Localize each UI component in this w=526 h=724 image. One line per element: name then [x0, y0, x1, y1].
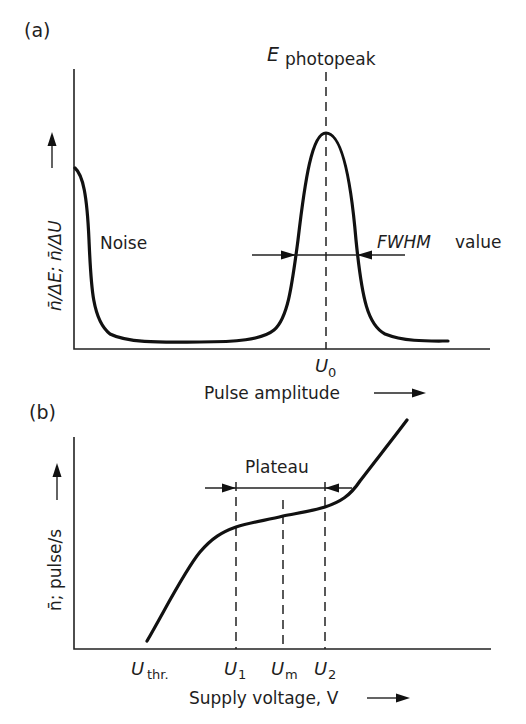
panel-a: (a) n̄/ΔE; n̄/ΔU E photopeak Noise FWHM — [24, 19, 501, 403]
noise-label: Noise — [100, 233, 147, 253]
panel-b-x-arrow-icon — [367, 694, 410, 703]
svg-text:U: U — [271, 658, 284, 679]
panel-a-x-axis-label: Pulse amplitude — [204, 383, 340, 403]
panel-a-label: (a) — [24, 19, 50, 41]
panel-a-y-arrow-icon — [48, 132, 57, 168]
x-tick-uthr: U thr. — [131, 658, 169, 682]
plateau-curve — [147, 420, 407, 641]
svg-text:U: U — [131, 658, 144, 679]
panel-b-x-axis-label: Supply voltage, V — [189, 688, 339, 708]
svg-text:U: U — [224, 658, 237, 679]
photopeak-label-sub: photopeak — [285, 49, 376, 69]
x-tick-u0-sub: 0 — [328, 365, 336, 380]
plateau-double-arrow — [205, 484, 352, 493]
svg-text:1: 1 — [238, 667, 246, 682]
x-tick-u1: U 1 — [224, 658, 246, 682]
panel-a-axes — [74, 69, 490, 349]
fwhm-label-value: value — [455, 232, 501, 252]
panel-b: (b) n̄; pulse/s Plateau U thr. U 1 — [29, 401, 491, 708]
fwhm-label: FWHM — [377, 232, 431, 252]
plateau-label: Plateau — [245, 457, 309, 477]
panel-b-y-axis-label: n̄; pulse/s — [45, 529, 65, 611]
panel-b-label: (b) — [29, 401, 56, 423]
panel-b-y-arrow-icon — [53, 463, 62, 500]
figure-canvas: (a) n̄/ΔE; n̄/ΔU E photopeak Noise FWHM — [0, 0, 526, 724]
svg-text:m: m — [285, 667, 298, 682]
x-tick-um: U m — [271, 658, 298, 682]
x-tick-u2: U 2 — [314, 658, 336, 682]
svg-text:2: 2 — [328, 667, 336, 682]
svg-text:U: U — [314, 658, 327, 679]
panel-a-y-axis-label: n̄/ΔE; n̄/ΔU — [45, 220, 65, 311]
svg-text:thr.: thr. — [147, 667, 169, 682]
x-tick-u0: U — [315, 355, 328, 376]
photopeak-label: E — [267, 43, 279, 65]
panel-a-x-arrow-icon — [374, 389, 426, 398]
